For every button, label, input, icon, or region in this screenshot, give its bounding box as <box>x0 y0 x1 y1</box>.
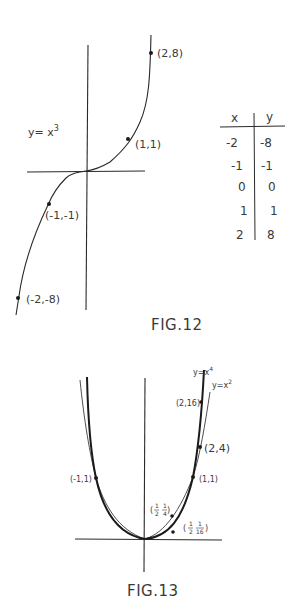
fig12-point-2-8 <box>149 51 153 55</box>
fig13-point-half-sixteenth <box>171 530 175 534</box>
fig13-point-m1-1 <box>94 476 98 480</box>
fig13-label-x4: y=x4 <box>193 365 213 377</box>
table-cell-x: -2 <box>226 136 238 150</box>
fig13-plot: y=x4 y=x2 (2,16) (2,4) (1,1) (-1,1) ( 1 … <box>70 365 232 572</box>
svg-text:16: 16 <box>196 528 204 535</box>
fig12-point-1-1 <box>126 137 130 141</box>
table-cell-x: -1 <box>231 159 243 173</box>
table-cell-x: 2 <box>236 228 244 242</box>
fig13-label-2-16: (2,16) <box>176 399 200 408</box>
svg-text:1: 1 <box>189 520 193 527</box>
fig12-point-m2-m8 <box>16 296 20 300</box>
fig12-label-m1-m1: (-1,-1) <box>45 209 79 222</box>
fig12-plot: (2,8) (1,1) (-1,-1) (-2,-8) y= x3 <box>16 35 183 315</box>
svg-text:2: 2 <box>155 510 159 517</box>
table-cell-y: 0 <box>268 180 276 194</box>
table-cell-y: -1 <box>261 159 273 173</box>
fig13-label-1-1: (1,1) <box>199 475 218 484</box>
svg-text:(: ( <box>150 506 153 515</box>
fig13-label-half-sixteenth: ( 1 2 1 16 ) <box>183 520 208 535</box>
fig13-point-2-4 <box>198 445 202 449</box>
table-cell-y: 1 <box>270 204 278 218</box>
fig13-y-axis <box>144 378 145 572</box>
fig13-label-m1-1: (-1,1) <box>70 475 92 484</box>
table-cell-y: 8 <box>267 228 275 242</box>
svg-text:1: 1 <box>198 520 202 527</box>
fig12-point-m1-m1 <box>47 202 51 206</box>
fig13-label-half-quarter: ( 1 2 1 4 ) <box>150 502 170 517</box>
table-header-x: x <box>231 111 238 125</box>
fig12-function-label: y= x3 <box>28 124 59 139</box>
fig12-caption: FIG.12 <box>151 316 203 334</box>
table-cell-x: 0 <box>238 180 246 194</box>
svg-text:1: 1 <box>155 502 159 509</box>
fig12-value-table: x y -2 -8 -1 -1 0 0 1 1 2 8 <box>220 110 285 242</box>
fig13-quartic-x4 <box>87 370 204 539</box>
fig13-label-x2: y=x2 <box>212 378 232 390</box>
svg-text:): ) <box>205 524 208 533</box>
fig13-point-1-1 <box>191 475 195 479</box>
fig12-label-1-1: (1,1) <box>135 138 161 151</box>
fig12-label-2-8: (2,8) <box>157 47 183 60</box>
table-cell-y: -8 <box>260 136 272 150</box>
fig13-label-2-4: (2,4) <box>204 442 230 455</box>
svg-text:): ) <box>167 506 170 515</box>
svg-text:2: 2 <box>189 528 193 535</box>
table-divider-horizontal <box>220 126 285 127</box>
table-cell-x: 1 <box>240 204 248 218</box>
svg-text:(: ( <box>183 524 186 533</box>
table-divider-vertical <box>254 113 255 240</box>
fig13-point-half-quarter <box>170 514 174 518</box>
table-header-y: y <box>266 110 273 124</box>
fig12-cubic-curve <box>16 35 151 315</box>
fig12-label-m2-m8: (-2,-8) <box>26 293 60 306</box>
fig12-y-axis <box>86 45 88 310</box>
fig13-caption: FIG.13 <box>127 582 179 600</box>
figure-canvas: (2,8) (1,1) (-1,-1) (-2,-8) y= x3 x y -2… <box>0 0 299 610</box>
